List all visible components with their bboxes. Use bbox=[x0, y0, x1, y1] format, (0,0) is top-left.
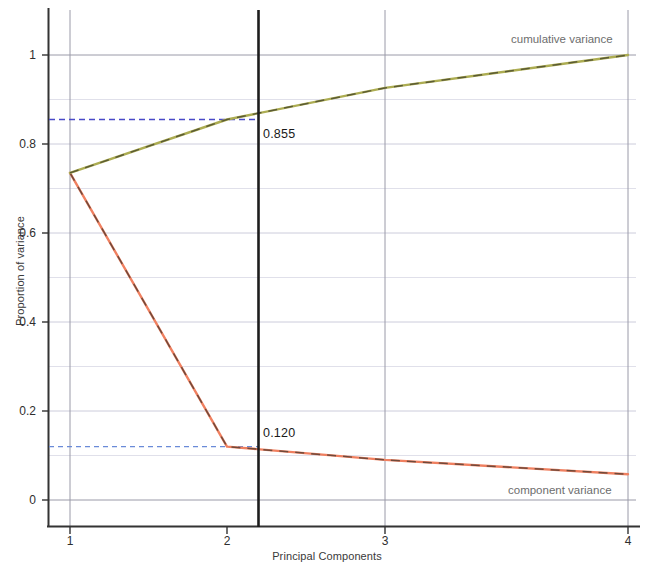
plot-background bbox=[48, 10, 636, 526]
y-tick-label-1: 1 bbox=[2, 48, 36, 62]
cumulative-value-annotation: 0.855 bbox=[263, 127, 295, 141]
y-axis-title: Proportion of variance bbox=[14, 216, 26, 326]
x-axis-ticks bbox=[70, 527, 628, 534]
y-tick-label-0.8: 0.8 bbox=[2, 137, 36, 151]
component-variance-label: component variance bbox=[508, 484, 612, 496]
y-tick-label-0.2: 0.2 bbox=[2, 404, 36, 418]
y-axis-title-wrapper: Proportion of variance bbox=[10, 161, 28, 381]
x-tick-label-4: 4 bbox=[613, 534, 643, 548]
x-tick-label-2: 2 bbox=[212, 534, 242, 548]
x-axis-title: Principal Components bbox=[0, 550, 654, 562]
x-tick-label-1: 1 bbox=[55, 534, 85, 548]
cumulative-variance-label: cumulative variance bbox=[511, 33, 613, 45]
component-value-annotation: 0.120 bbox=[263, 426, 295, 440]
y-tick-label-0: 0 bbox=[2, 493, 36, 507]
scree-plot-screenshot: 1 0.8 0.6 0.4 0.2 0 1 2 3 4 Principal Co… bbox=[0, 0, 654, 572]
x-tick-label-3: 3 bbox=[370, 534, 400, 548]
